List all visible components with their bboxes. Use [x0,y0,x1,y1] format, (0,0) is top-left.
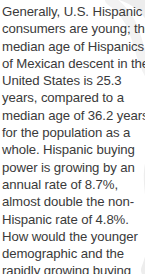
passage-line: whole. Hispanic buying [2,141,145,158]
passage-line: consumers are young; the [2,20,145,37]
passage-line: median age of 36.2 years [2,107,145,124]
passage-line: United States is 25.3 [2,72,145,89]
passage-line: power is growing by an [2,159,145,176]
passage-line: of Mexican descent in the [2,55,145,72]
passage-line: median age of Hispanics [2,38,145,55]
passage-line: rapidly growing buying [2,262,145,274]
passage-line: How would the younger [2,228,145,245]
passage-line: almost double the non- [2,193,145,210]
passage-line: years, compared to a [2,89,145,106]
passage-line: for the population as a [2,124,145,141]
passage-line: Hispanic rate of 4.8%. [2,211,145,228]
passage-line: Generally, U.S. Hispanic [2,3,145,20]
passage-text: Generally, U.S. Hispanic consumers are y… [2,3,145,274]
passage-line: demographic and the [2,245,145,262]
passage-line: annual rate of 8.7%, [2,176,145,193]
